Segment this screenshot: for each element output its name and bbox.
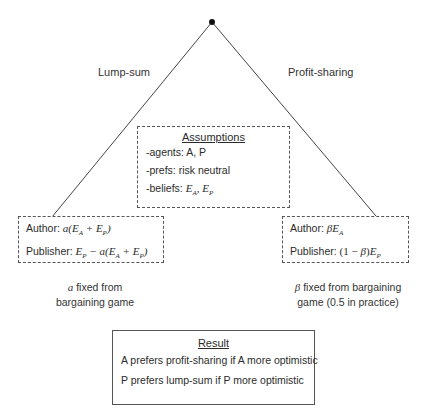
lump-sum-author-payoff: Author: a(EA + EP) [26, 222, 163, 240]
assumptions-title: Assumptions [138, 131, 289, 143]
result-line-a: A prefers profit-sharing if A more optim… [121, 354, 314, 367]
lump-sum-author-formula: a(EA + EP) [63, 222, 111, 234]
profit-sharing-author-payoff: Author: βEA [290, 222, 408, 240]
profit-sharing-publisher-formula: (1 − β)EP [340, 245, 381, 257]
lump-sum-note-text: fixed from [73, 281, 122, 293]
lump-sum-publisher-formula: EP − a(EA + EP) [76, 245, 148, 257]
profit-sharing-author-formula: βEA [327, 222, 343, 234]
lump-sum-publisher-payoff: Publisher: EP − a(EA + EP) [26, 245, 163, 263]
result-box: Result A prefers profit-sharing if A mor… [112, 330, 315, 405]
profit-sharing-note: β fixed from bargaining game (0.5 in pra… [282, 280, 414, 310]
result-title: Result [113, 337, 314, 349]
profit-sharing-payoff-box: Author: βEA Publisher: (1 − β)EP [282, 216, 409, 263]
assumption-prefs: -prefs: risk neutral [146, 164, 289, 177]
beliefs-formula: EA, EP [186, 182, 214, 194]
assumption-beliefs: -beliefs: EA, EP [146, 182, 289, 200]
result-line-p: P prefers lump-sum if P more optimistic [121, 374, 314, 387]
lump-sum-payoff-box: Author: a(EA + EP) Publisher: EP − a(EA … [18, 216, 164, 263]
profit-sharing-branch-label: Profit-sharing [288, 66, 353, 78]
root-node-dot [209, 19, 215, 25]
assumptions-box: Assumptions -agents: A, P -prefs: risk n… [137, 126, 290, 208]
profit-sharing-note-text: fixed from bargaining [300, 281, 401, 293]
lump-sum-branch-label: Lump-sum [98, 66, 150, 78]
profit-sharing-publisher-payoff: Publisher: (1 − β)EP [290, 245, 408, 263]
assumption-agents: -agents: A, P [146, 146, 289, 159]
lump-sum-note: a fixed from bargaining game [40, 280, 150, 310]
